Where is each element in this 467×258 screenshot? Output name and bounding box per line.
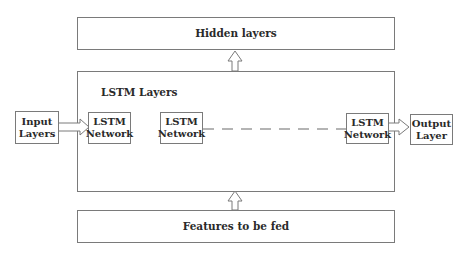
lstm2-label-1: LSTM <box>158 116 206 128</box>
lstm3-label-2: Network <box>344 129 392 141</box>
lstm1-label-1: LSTM <box>86 116 134 128</box>
arrow-up-icon <box>228 51 242 71</box>
lstm2-label-2: Network <box>158 128 206 140</box>
input-label-1: Input <box>19 116 56 128</box>
lstm1-label-2: Network <box>86 128 134 140</box>
lstm3-label-1: LSTM <box>344 117 392 129</box>
input-layers-box: Input Layers <box>15 111 59 144</box>
arrow-up-icon <box>228 191 242 210</box>
input-label-2: Layers <box>19 128 56 140</box>
arrow-right-icon <box>58 119 89 135</box>
lstm-network-2: LSTM Network <box>160 112 203 144</box>
connectors <box>0 0 467 258</box>
lstm-network-3: LSTM Network <box>346 113 389 144</box>
output-layer-box: Output Layer <box>410 114 453 145</box>
lstm-network-1: LSTM Network <box>88 112 131 144</box>
output-label-2: Layer <box>412 130 451 142</box>
output-label-1: Output <box>412 118 451 130</box>
